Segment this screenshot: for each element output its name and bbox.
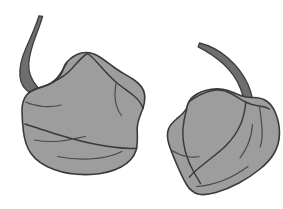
peppers-illustration-svg [0,0,283,209]
illustration-canvas: Two peppers illustration [0,0,283,209]
